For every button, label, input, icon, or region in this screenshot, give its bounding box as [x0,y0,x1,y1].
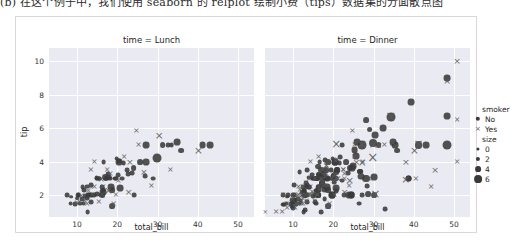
data-point: × [341,188,349,197]
gridline-horizontal [49,95,254,96]
x-tick-label: 20 [329,220,339,229]
data-point: × [402,157,410,166]
data-point: × [401,173,410,184]
data-point [160,142,166,148]
data-point [178,148,184,154]
y-tick-label: 10 [16,57,44,66]
figure-caption-text: (b) 在这个例子中，我们使用 seaborn 的 relplot 绘制小费（t… [0,0,491,13]
data-point [85,210,90,215]
data-point: × [366,175,373,183]
data-point [130,171,135,176]
data-point [174,139,181,146]
data-point: × [307,158,314,166]
legend-marker-circle [476,147,479,150]
data-point [383,207,388,212]
x-tick-label: 20 [113,220,123,229]
data-point [152,154,161,163]
data-point: × [443,77,451,86]
data-point: × [324,201,332,210]
legend-marker-circle [476,157,480,161]
data-point [360,193,365,198]
facet-title-dinner: time = Dinner [265,35,470,45]
data-point [65,193,70,198]
data-point: × [302,179,309,187]
data-point: × [358,172,365,180]
data-point: × [140,167,148,176]
data-point [169,143,174,148]
x-tick-label: 50 [449,220,459,229]
legend-marker-circle [474,175,482,183]
legend-group-title: size [482,135,497,144]
data-point: × [110,200,117,208]
gridline-horizontal [49,61,254,62]
x-tick-label: 40 [193,220,203,229]
gridline-horizontal [265,95,470,96]
data-point: × [126,157,134,166]
data-point [132,192,137,197]
data-point: × [428,183,435,191]
x-axis-label-lunch: total_bill [134,223,168,232]
data-point: × [389,137,398,148]
legend-entry-label: 6 [485,175,490,184]
x-tick-label: 10 [288,220,298,229]
legend-marker-x: × [475,126,481,133]
plot-panel-lunch: ×××××××××××××××××××××××××××××××× [49,48,254,217]
data-point: × [280,191,287,199]
y-tick-label: 6 [16,124,44,133]
data-point: × [113,191,120,199]
data-point: × [352,157,360,166]
data-point: × [88,166,95,174]
data-point: × [107,170,114,178]
data-point: × [297,197,304,205]
data-point: × [359,158,366,166]
data-point: × [143,158,150,166]
data-point [68,201,73,206]
data-point: × [331,139,341,151]
y-tick-label: 4 [16,157,44,166]
data-point [394,148,400,154]
data-point: × [316,186,323,194]
data-point: × [356,138,367,151]
data-point [142,142,149,149]
legend-entry-label: 2 [485,155,490,164]
legend-entry-label: 4 [485,165,490,174]
data-point [408,98,415,105]
data-point [442,141,451,150]
data-point: × [167,166,174,174]
data-point [319,209,324,214]
data-point: × [385,110,396,123]
data-point [302,208,307,213]
data-point: × [320,166,327,174]
x-tick-label: 10 [72,220,82,229]
data-point [207,142,214,149]
x-axis-label-dinner: total_bill [350,223,384,232]
data-point: × [194,144,203,155]
gridline-horizontal [49,128,254,129]
data-point: × [454,116,461,124]
gridline-vertical [238,48,239,217]
data-point: × [367,152,378,165]
x-tick-label: 40 [409,220,419,229]
data-point [101,159,106,164]
data-point: × [414,139,424,151]
data-point: × [331,177,338,185]
data-point [348,192,355,199]
legend-entry-label: 0 [485,145,490,154]
legend-entry-label: No [485,115,495,124]
data-point: × [454,158,461,166]
data-point [365,183,370,188]
data-point [380,125,387,132]
data-point [444,113,451,120]
data-point: × [332,157,339,165]
gridline-horizontal [49,162,254,163]
data-point: × [84,200,91,208]
data-point: × [345,175,354,186]
data-point: × [289,196,296,204]
data-point: × [155,130,164,141]
x-tick-label: 50 [233,220,243,229]
gridline-horizontal [265,61,470,62]
plot-panel-dinner: ××××××××××××××××××××××××××××××××××××××××… [265,48,470,217]
data-point: × [262,209,268,216]
data-point: × [349,127,356,135]
figure-caption: (b) 在这个例子中，我们使用 seaborn 的 relplot 绘制小费（t… [0,0,491,13]
